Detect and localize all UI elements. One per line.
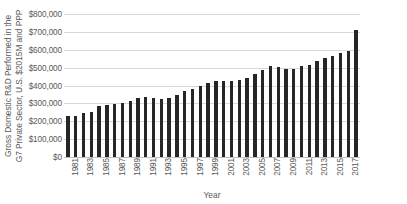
- bar: [308, 65, 311, 157]
- y-axis-tick-label: $100,000: [29, 135, 62, 144]
- bar: [253, 74, 256, 157]
- y-axis-tick-label: $800,000: [29, 10, 62, 19]
- bar: [323, 58, 326, 157]
- x-axis-tick-label: 2003: [242, 158, 251, 176]
- x-axis-tick-label: 2001: [227, 158, 236, 176]
- bar: [269, 66, 272, 157]
- bar: [113, 104, 116, 157]
- bar: [136, 98, 139, 157]
- bar: [90, 112, 93, 157]
- x-axis-tick-label: 1987: [118, 158, 127, 176]
- y-axis-tick-label: $200,000: [29, 117, 62, 126]
- x-axis-tick-label: 1991: [149, 158, 158, 176]
- bar: [144, 97, 147, 157]
- bar: [339, 53, 342, 157]
- y-axis-tick-labels: $0$100,000$200,000$300,000$400,000$500,0…: [24, 0, 64, 170]
- x-axis-tick-label: 1983: [86, 158, 95, 176]
- plot-area: [64, 14, 360, 157]
- bar: [238, 80, 241, 157]
- x-axis-title: Year: [64, 190, 360, 200]
- bar: [82, 113, 85, 157]
- x-axis-tick-label: 2011: [305, 158, 314, 175]
- x-axis-tick-labels: 1981198319851987198919911993199519971999…: [64, 158, 364, 192]
- bar: [97, 106, 100, 157]
- bar-chart: Gross Domestic R&D Performed in the G7 P…: [0, 0, 407, 204]
- bar: [230, 81, 233, 158]
- x-axis-tick-label: 1981: [71, 158, 80, 176]
- y-axis-tick-label: $400,000: [29, 81, 62, 90]
- bar: [222, 81, 225, 157]
- x-axis-tick-label: 1985: [102, 158, 111, 176]
- bar: [300, 66, 303, 157]
- bar: [129, 101, 132, 157]
- bar: [214, 81, 217, 158]
- bar: [74, 116, 77, 157]
- bar: [160, 99, 163, 157]
- y-axis-tick-label: $300,000: [29, 99, 62, 108]
- bar: [121, 103, 124, 157]
- bar: [183, 91, 186, 157]
- bar: [175, 95, 178, 157]
- bar: [199, 86, 202, 157]
- x-axis-tick-label: 1993: [164, 158, 173, 176]
- bar-series: [64, 14, 360, 157]
- bar: [152, 98, 155, 157]
- x-axis-tick-label: 1989: [133, 158, 142, 176]
- bar: [347, 51, 350, 157]
- bar: [284, 69, 287, 157]
- y-axis-tick-label: $500,000: [29, 63, 62, 72]
- x-axis-tick-label: 1999: [211, 158, 220, 176]
- y-axis-tick-label: $600,000: [29, 45, 62, 54]
- bar: [331, 56, 334, 157]
- bar: [105, 105, 108, 157]
- y-axis-tick-label: $700,000: [29, 27, 62, 36]
- bar: [315, 61, 318, 157]
- x-axis-tick-label: 2017: [351, 158, 360, 176]
- x-axis-tick-label: 2013: [320, 158, 329, 176]
- bar: [66, 116, 69, 157]
- bar: [245, 78, 248, 157]
- x-axis-tick-label: 2009: [289, 158, 298, 176]
- bar: [191, 89, 194, 157]
- x-axis-tick-label: 1997: [196, 158, 205, 176]
- bar: [277, 67, 280, 157]
- x-axis-tick-label: 2007: [273, 158, 282, 176]
- bar: [167, 98, 170, 157]
- y-axis-title-line-1: Gross Domestic R&D Performed in the: [3, 15, 14, 157]
- bar: [354, 30, 357, 157]
- x-axis-tick-label: 2005: [258, 158, 267, 176]
- x-axis-tick-label: 1995: [180, 158, 189, 176]
- bar: [206, 83, 209, 157]
- y-axis-tick-label: $0: [53, 153, 62, 162]
- bar: [261, 70, 264, 157]
- x-axis-tick-label: 2015: [336, 158, 345, 176]
- bar: [292, 69, 295, 157]
